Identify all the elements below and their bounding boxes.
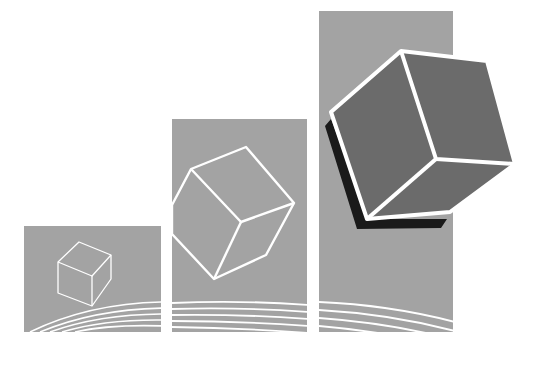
panel-medium xyxy=(172,119,310,333)
growth-illustration xyxy=(0,0,543,370)
panel-small xyxy=(24,226,165,332)
